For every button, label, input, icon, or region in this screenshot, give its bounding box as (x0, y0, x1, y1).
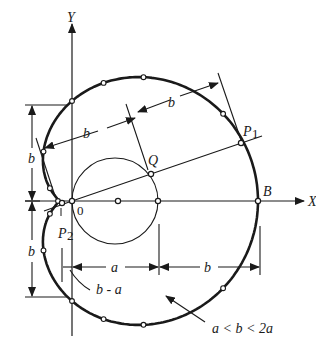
point-p1-marker (238, 140, 243, 145)
dim-b-slant-left-2 (107, 118, 135, 128)
limacon-diagram: Y X 0 Q P 1 B P 2 b b b b a b b - a a < … (0, 0, 316, 345)
curve-point-marker (41, 248, 46, 253)
dim-b-slant-top-label: b (168, 95, 175, 110)
curve-point-marker (48, 211, 53, 216)
ray-o-p1 (72, 136, 262, 201)
condition-label: a < b < 2a (212, 321, 273, 336)
circle-right-point (155, 198, 160, 203)
curve-point-marker (101, 81, 106, 86)
point-b-marker (255, 198, 260, 203)
x-axis-label: X (307, 194, 316, 209)
diagram-svg: Y X 0 Q P 1 B P 2 b b b b a b b - a a < … (0, 0, 316, 345)
curve-point-marker (41, 149, 46, 154)
dim-b-minus-a-label: b - a (96, 282, 122, 297)
dim-b-bottom-label: b (204, 260, 211, 275)
dim-b-slant-left-label: b (83, 126, 90, 141)
curve-point-marker (48, 186, 53, 191)
point-p2-marker (59, 200, 64, 205)
dim-a-label: a (111, 260, 118, 275)
point-p2-label: P (57, 226, 67, 241)
origin-point (69, 198, 74, 203)
point-b-label: B (263, 184, 272, 199)
point-p1-label: P (242, 124, 252, 139)
origin-label: 0 (77, 203, 84, 218)
curve-point-marker (141, 75, 146, 80)
curve-point-marker (101, 317, 106, 322)
curve-point-marker (70, 99, 75, 104)
curve-point-marker (141, 322, 146, 327)
slant-tick-p1 (218, 73, 243, 146)
y-axis-label: Y (67, 10, 77, 25)
point-q-marker (148, 171, 153, 176)
leader-b-minus-a (70, 270, 90, 290)
curve-point-marker (221, 286, 226, 291)
curve-point-marker (70, 299, 75, 304)
point-p2-subscript: 2 (67, 228, 74, 243)
dim-b-left-lower-label: b (28, 244, 35, 259)
dim-b-slant-top-1 (138, 100, 170, 112)
point-p1-subscript: 1 (252, 126, 259, 141)
dim-b-left-upper-label: b (28, 151, 35, 166)
point-q-label: Q (148, 153, 158, 168)
curve-point-marker (221, 111, 226, 116)
circle-center-point (115, 198, 120, 203)
